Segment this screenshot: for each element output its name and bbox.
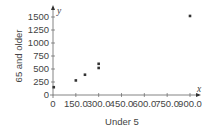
x-axis-label: Under 5 (105, 116, 139, 127)
data-point (97, 63, 100, 66)
x-tick-label: 900.0 (178, 98, 202, 109)
x-tick-label: 600.0 (132, 98, 156, 109)
y-tick-label: 500 (33, 63, 49, 74)
x-tick-label: 150.0 (64, 98, 88, 109)
x-tick-label: 0 (50, 98, 55, 109)
y-tick-label: 1250 (28, 24, 49, 35)
y-tick-label: 750 (33, 50, 49, 61)
y-tick-label: 250 (33, 76, 49, 87)
y-tick-label: 1000 (28, 37, 49, 48)
x-tick-label: 750.0 (155, 98, 179, 109)
x-tick-label: 300.0 (87, 98, 111, 109)
y-axis-ticks: 0250500750100012501500 (28, 11, 55, 100)
y-tick-label: 1500 (28, 11, 49, 22)
data-point (97, 67, 100, 70)
data-points (52, 15, 191, 89)
data-point (84, 73, 87, 76)
y-tick-label: 0 (44, 89, 49, 100)
y-axis-arrow-icon (51, 5, 55, 10)
axes (50, 5, 201, 98)
data-point (189, 15, 192, 18)
x-tick-label: 450.0 (110, 98, 134, 109)
scatter-chart: 0250500750100012501500 0150.0300.0450.06… (0, 0, 212, 130)
y-variable-label: y (56, 6, 62, 16)
data-point (52, 86, 55, 89)
data-point (75, 79, 78, 82)
x-variable-label: x (196, 84, 202, 94)
y-axis-label: 65 and older (13, 30, 24, 83)
